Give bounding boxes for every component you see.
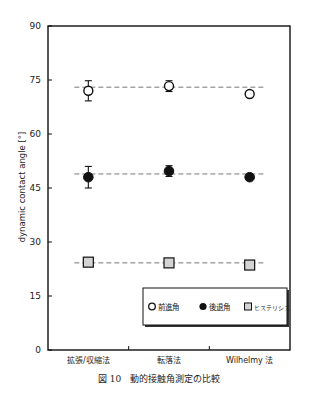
legend-open-circle-marker bbox=[149, 303, 156, 310]
filled-circle-marker bbox=[245, 172, 255, 182]
legend: 前進角後退角ヒステリシス bbox=[143, 288, 290, 327]
open-circle-marker bbox=[84, 86, 93, 95]
filled-circle-marker bbox=[84, 172, 94, 182]
legend-label: 前進角 bbox=[158, 302, 179, 312]
filled-circle-marker bbox=[164, 166, 174, 176]
y-tick-label: 75 bbox=[30, 75, 41, 85]
legend-filled-circle-marker bbox=[199, 303, 206, 310]
y-tick-label: 15 bbox=[30, 291, 41, 301]
figure-caption: 図 10 動的接触角測定の比較 bbox=[98, 373, 220, 384]
legend-label: 後退角 bbox=[209, 302, 230, 312]
open-circle-marker bbox=[245, 90, 254, 99]
square-marker bbox=[83, 257, 93, 267]
y-axis-label: dynamic contact angle [°] bbox=[17, 132, 27, 243]
x-category-label: 拡張/収縮法 bbox=[67, 355, 110, 365]
legend-label: ヒステリシス bbox=[254, 304, 290, 312]
y-tick-label: 30 bbox=[30, 237, 42, 247]
data-points bbox=[83, 81, 254, 270]
legend-square-marker bbox=[245, 303, 252, 310]
y-tick-label: 45 bbox=[30, 183, 41, 193]
x-axis-category-labels: 拡張/収縮法転落法Wilhelmy 法 bbox=[67, 346, 273, 365]
chart: 0153045607590 拡張/収縮法転落法Wilhelmy 法 前進角後退角… bbox=[0, 0, 309, 399]
y-tick-label: 60 bbox=[30, 129, 42, 139]
y-tick-label: 90 bbox=[30, 21, 42, 31]
x-category-label: Wilhelmy 法 bbox=[226, 355, 273, 365]
square-marker bbox=[164, 258, 174, 268]
open-circle-marker bbox=[165, 82, 174, 91]
x-category-label: 転落法 bbox=[157, 355, 181, 365]
square-marker bbox=[245, 260, 255, 270]
y-tick-label: 0 bbox=[35, 345, 41, 355]
